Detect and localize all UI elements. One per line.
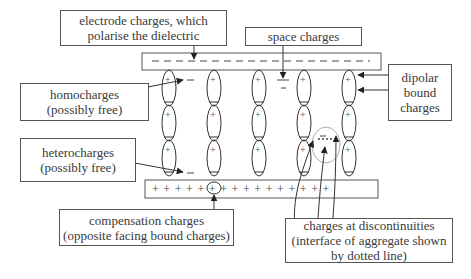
label-homocharges-line1: homocharges (50, 87, 119, 102)
label-dipolar-line3: charges (400, 100, 439, 115)
svg-text:+: + (255, 144, 261, 155)
svg-text:+: + (210, 144, 216, 155)
bottom-electrode-charges: ++++++++++++++++ (152, 182, 334, 196)
label-heterocharges-line1: heterocharges (42, 145, 114, 160)
svg-text:+: + (165, 109, 171, 120)
label-heterocharges: heterocharges (possibly free) (20, 138, 136, 182)
label-space-charges-line1: space charges (268, 29, 340, 44)
label-dipolar-bound-charges: dipolar bound charges (388, 64, 452, 121)
svg-text:+: + (210, 109, 216, 120)
svg-text:+: + (300, 74, 306, 85)
label-compensation-line1: compensation charges (89, 213, 204, 228)
label-space-charges: space charges (245, 27, 362, 46)
label-compensation-line2: (opposite facing bound charges) (63, 228, 230, 243)
label-homocharges: homocharges (possibly free) (20, 83, 149, 121)
label-dipolar-line2: bound (404, 85, 437, 100)
bottom-electrode: ++++++++++++++++ (145, 180, 378, 198)
label-electrode-charges: electrode charges, which polarise the di… (60, 10, 227, 46)
dipole-column-1: +++ (162, 70, 176, 176)
label-charges-at-discontinuities: charges at discontinuities (interface of… (285, 218, 453, 263)
svg-text:+: + (255, 109, 261, 120)
label-electrode-charges-line1: electrode charges, which (79, 13, 208, 28)
svg-text:+: + (255, 74, 261, 85)
svg-text:+: + (165, 144, 171, 155)
label-discontinuities-line2: (interface of aggregate shown (292, 233, 447, 248)
label-compensation-charges: compensation charges (opposite facing bo… (59, 209, 234, 246)
top-electrode (142, 53, 381, 70)
svg-text:+: + (345, 74, 351, 85)
label-homocharges-line2: (possibly free) (47, 102, 122, 117)
arrow-discontinuity-3 (333, 136, 336, 218)
svg-text:+: + (345, 109, 351, 120)
label-discontinuities-line1: charges at discontinuities (303, 218, 434, 233)
label-electrode-charges-line2: polarise the dielectric (88, 28, 200, 43)
svg-text:+: + (345, 144, 351, 155)
dipole-array: +++ +++ +++ +++ +++ (162, 70, 356, 176)
svg-text:+: + (300, 144, 306, 155)
dipole-column-2: +++ (207, 70, 221, 176)
label-heterocharges-line2: (possibly free) (40, 160, 115, 175)
dipole-column-5: +++ (342, 70, 356, 176)
dipole-column-4: +++ (297, 70, 311, 176)
free-charges (187, 80, 340, 173)
dipole-column-3: +++ (252, 70, 266, 176)
svg-text:+: + (300, 109, 306, 120)
label-dipolar-line1: dipolar (402, 70, 439, 85)
svg-text:+: + (210, 74, 216, 85)
label-discontinuities-line3: by dotted line) (331, 248, 407, 263)
